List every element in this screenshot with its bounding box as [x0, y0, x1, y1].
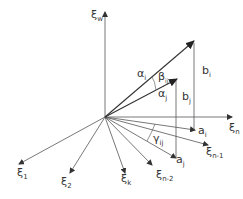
axis-xi-2 [70, 117, 105, 173]
axis-xi-1 [19, 117, 105, 164]
label-b-i: bi [202, 64, 211, 79]
label-xi-k: ξk [121, 172, 132, 187]
label-b-j: bj [182, 90, 191, 105]
vector-alpha-i [105, 41, 194, 117]
angle-beta-arc [152, 77, 156, 90]
label-beta-ij: βij [158, 70, 169, 85]
label-a-i: ai [198, 124, 207, 139]
label-xi-n1: ξn-1 [206, 145, 224, 160]
projection-a-j [105, 117, 176, 158]
label-xi-1: ξ1 [17, 166, 28, 181]
vector-diagram: ξw ξn ξ1 ξ2 ξk ξn-2 ξn-1 αi αj βij γij a… [0, 0, 243, 199]
label-gamma-ij: γij [153, 132, 163, 147]
label-alpha-i: αi [137, 67, 146, 82]
axis-xi-k [105, 117, 125, 173]
label-xi-n: ξn [229, 121, 240, 136]
label-xi-w: ξw [91, 8, 103, 23]
label-alpha-j: αj [158, 87, 167, 102]
label-xi-n2: ξn-2 [156, 168, 174, 183]
label-a-j: aj [176, 153, 185, 168]
axis-xi-n2 [105, 117, 152, 165]
label-xi-2: ξ2 [61, 175, 72, 190]
projection-a-i [105, 117, 195, 130]
